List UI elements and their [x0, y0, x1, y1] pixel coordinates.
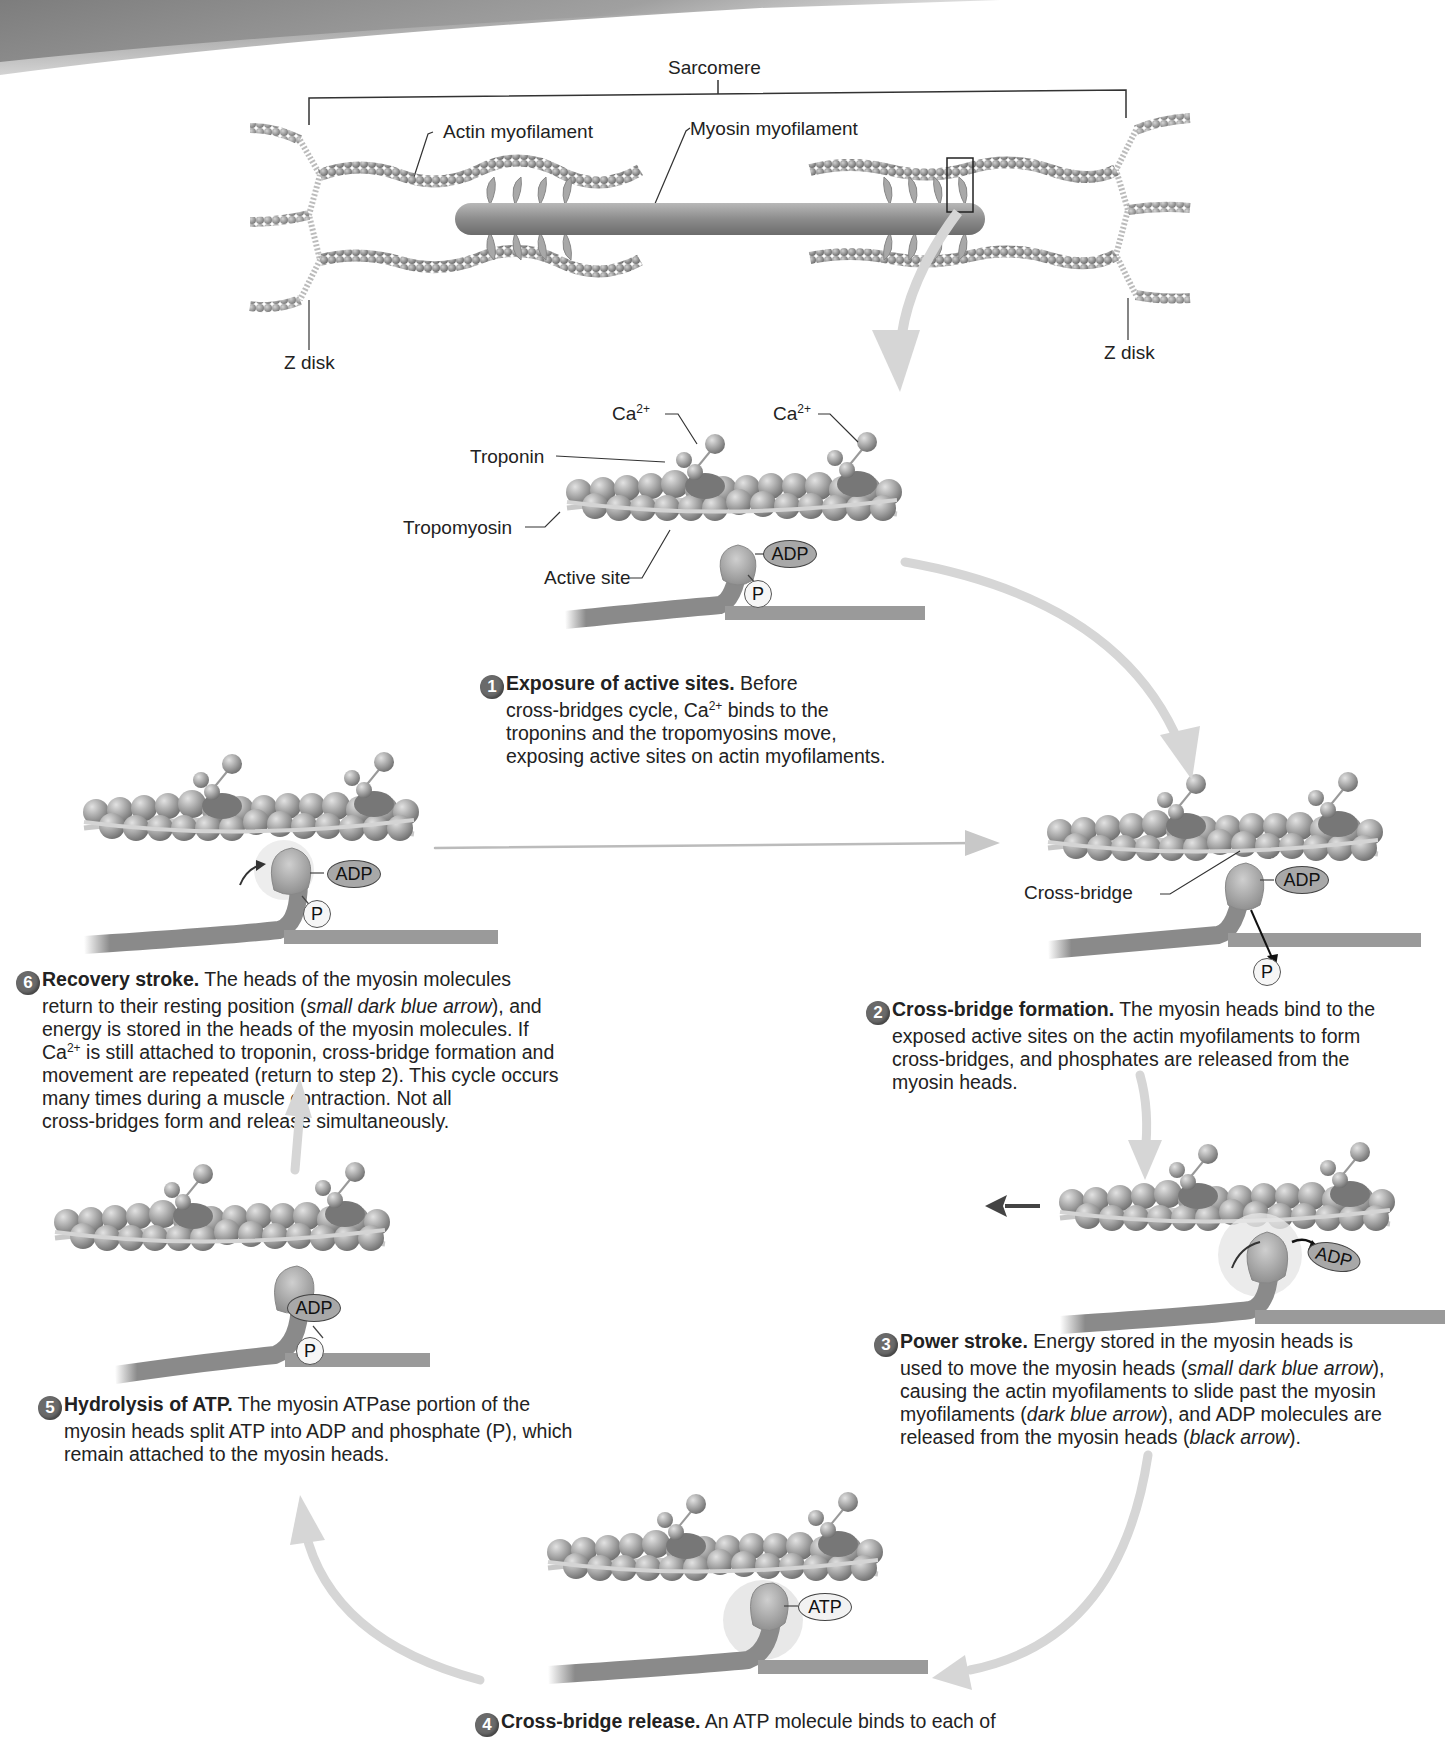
arrow-step4-to-step5 — [305, 1530, 480, 1680]
arrow-step3-to-step4 — [970, 1455, 1148, 1670]
cycle-arrows — [0, 0, 1451, 1742]
arrow-step6-to-step2 — [435, 843, 975, 848]
arrow-step5-to-step6 — [295, 1110, 300, 1170]
arrow-step1-to-step2 — [905, 562, 1180, 745]
